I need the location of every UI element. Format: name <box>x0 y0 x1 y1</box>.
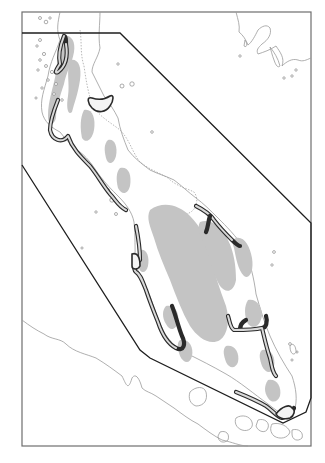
map-canvas <box>0 0 325 463</box>
zone-west-knob <box>132 254 140 269</box>
southern-island <box>189 388 206 407</box>
